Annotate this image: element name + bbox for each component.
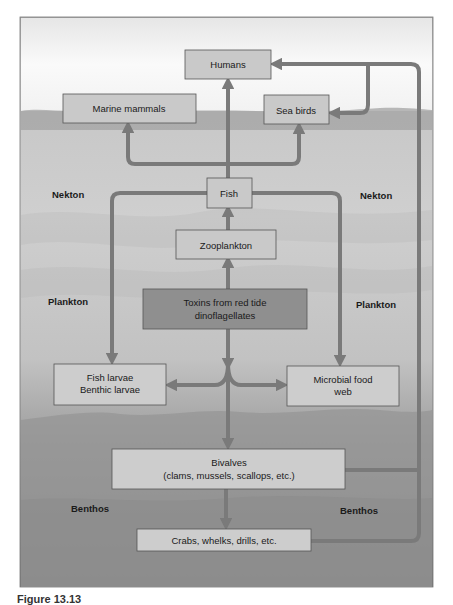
node-zooplankton: Zooplankton [176,230,276,259]
node-microbial-label-line1: Microbial food [313,374,372,385]
node-bivalves-label-line1: Bivalves [211,457,247,468]
node-marine-mammals: Marine mammals [63,94,196,123]
node-sea-birds: Sea birds [264,95,329,124]
node-marine-mammals-label: Marine mammals [93,103,166,114]
zone-label-plankton-right: Plankton [356,299,396,310]
figure-caption: Figure 13.13 [17,594,81,605]
node-fish-label: Fish [220,188,238,199]
zone-label-plankton-left: Plankton [48,296,88,307]
node-microbial-label-line2: web [333,386,351,397]
node-toxins-label-line1: Toxins from red tide [184,297,267,308]
node-fish: Fish [207,178,252,208]
node-toxins: Toxins from red tide dinoflagellates [143,289,307,329]
zone-label-benthos-left: Benthos [71,503,109,514]
zone-label-nekton-right: Nekton [360,190,392,201]
node-bivalves: Bivalves (clams, mussels, scallops, etc.… [112,449,345,489]
node-larvae-label-line1: Fish larvae [87,372,133,383]
node-crabs: Crabs, whelks, drills, etc. [137,529,311,551]
node-zooplankton-label: Zooplankton [200,240,252,251]
node-larvae: Fish larvae Benthic larvae [54,364,166,405]
node-sea-birds-label: Sea birds [276,105,316,116]
node-humans: Humans [185,50,271,79]
zone-label-benthos-right: Benthos [340,505,378,516]
node-crabs-label: Crabs, whelks, drills, etc. [171,535,276,546]
zone-label-nekton-left: Nekton [52,189,84,200]
node-toxins-label-line2: dinoflagellates [195,310,256,321]
node-larvae-label-line2: Benthic larvae [80,384,140,395]
node-bivalves-label-line2: (clams, mussels, scallops, etc.) [163,470,294,481]
node-microbial: Microbial food web [287,366,399,406]
node-humans-label: Humans [210,59,246,70]
